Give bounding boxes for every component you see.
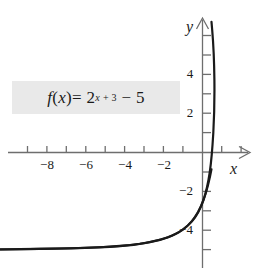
x-axis-label: x: [230, 160, 237, 178]
y-tick-label-neg2: −2: [174, 183, 198, 199]
formula-constant: 5: [136, 88, 145, 108]
y-tick-label-4: 4: [183, 66, 197, 82]
y-axis-label: y: [186, 18, 193, 36]
formula-equals: =: [72, 88, 82, 108]
y-axis-ticks: [203, 36, 211, 250]
graph-svg: [0, 0, 256, 272]
y-tick-label-neg4: −4: [174, 222, 198, 238]
x-tick-label-neg2: −2: [149, 157, 179, 173]
x-tick-label-neg4: −4: [110, 157, 140, 173]
y-tick-label-2: 2: [183, 105, 197, 121]
formula-annotation: f(x)= 2x + 3 − 5: [12, 81, 180, 114]
function-curve: [0, 22, 214, 250]
graph-figure: f(x)= 2x + 3 − 5 y x −8 −6 −4 −2 4 2 −2 …: [0, 0, 256, 272]
formula-minus: −: [121, 88, 131, 108]
formula-fx: f(x): [47, 88, 72, 108]
formula-base: 2: [87, 88, 96, 108]
x-tick-label-neg8: −8: [32, 157, 62, 173]
x-axis-ticks: [28, 146, 242, 152]
x-tick-label-neg6: −6: [71, 157, 101, 173]
